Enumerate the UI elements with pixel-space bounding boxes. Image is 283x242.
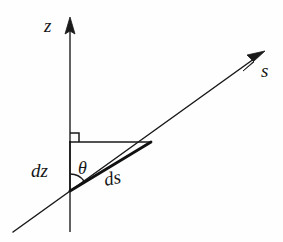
axis-label-s: s bbox=[261, 61, 268, 80]
axis-label-z: z bbox=[44, 16, 51, 35]
segment-label-dz: dz bbox=[31, 161, 48, 180]
angle-label-theta: θ bbox=[78, 159, 87, 177]
z-axis-arrowhead bbox=[65, 17, 75, 34]
segment-label-ds: ds bbox=[102, 167, 122, 189]
right-angle-marker bbox=[70, 133, 79, 142]
s-axis-line bbox=[13, 56, 258, 232]
figure-canvas: z s dz θ ds bbox=[0, 0, 283, 242]
geometry-diagram bbox=[0, 0, 283, 242]
